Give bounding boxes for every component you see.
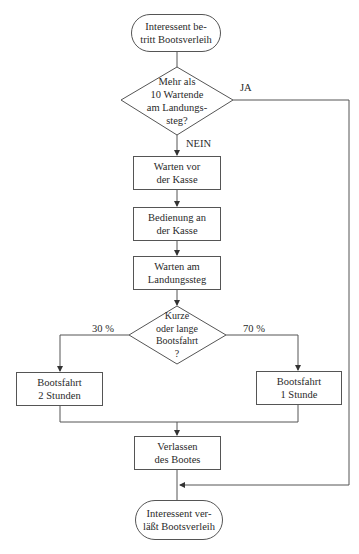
step-trip-short: Bootsfahrt 1 Stunde xyxy=(256,371,342,405)
yes-label: JA xyxy=(240,82,252,94)
start-terminator: Interessent be- tritt Bootsverleih xyxy=(131,14,221,52)
end-label: Interessent ver- läßt Bootsverleih xyxy=(143,507,215,533)
right-branch-label: 70 % xyxy=(243,323,265,335)
step-wait-cashier-label: Warten vor der Kasse xyxy=(154,160,201,186)
step-leave-boat: Verlassen des Bootes xyxy=(134,436,221,470)
decision-queue: Mehr als 10 Wartende am Landungs- steg? xyxy=(131,72,223,130)
no-label: NEIN xyxy=(186,138,211,150)
step-wait-pier-label: Warten am Landungssteg xyxy=(148,260,206,286)
decision-trip-label: Kurze oder lange Bootsfahrt ? xyxy=(156,310,198,360)
step-trip-long: Bootsfahrt 2 Stunden xyxy=(16,372,103,406)
decision-queue-label: Mehr als 10 Wartende am Landungs- steg? xyxy=(147,75,207,127)
end-terminator: Interessent ver- läßt Bootsverleih xyxy=(135,500,223,540)
step-wait-cashier: Warten vor der Kasse xyxy=(133,156,221,190)
start-label: Interessent be- tritt Bootsverleih xyxy=(140,20,211,46)
step-service-cashier-label: Bedienung an der Kasse xyxy=(148,211,206,237)
decision-trip: Kurze oder lange Bootsfahrt ? xyxy=(136,306,218,364)
left-branch-label: 30 % xyxy=(92,323,114,335)
step-trip-short-label: Bootsfahrt 1 Stunde xyxy=(277,375,321,401)
step-service-cashier: Bedienung an der Kasse xyxy=(133,207,221,241)
step-leave-boat-label: Verlassen des Bootes xyxy=(155,440,201,466)
step-wait-pier: Warten am Landungssteg xyxy=(133,256,221,290)
step-trip-long-label: Bootsfahrt 2 Stunden xyxy=(37,376,81,402)
